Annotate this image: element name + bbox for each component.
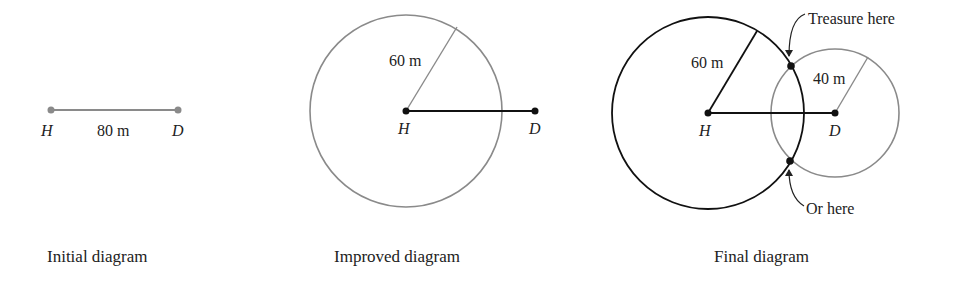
intersection-top (787, 62, 795, 70)
radius-label-h: 60 m (691, 54, 724, 71)
radius-line (406, 27, 457, 111)
label-d: D (171, 122, 184, 139)
point-d (832, 110, 839, 117)
arrow-or-here (789, 170, 804, 206)
radius-label: 60 m (389, 52, 422, 69)
label-h: H (397, 120, 411, 137)
radius-line-h (708, 31, 757, 113)
point-h (705, 110, 712, 117)
point-d (532, 108, 539, 115)
label-d: D (528, 120, 541, 137)
arrow-treasure-here (789, 14, 805, 56)
caption-final: Final diagram (714, 247, 809, 266)
point-d (175, 107, 182, 114)
label-d: D (828, 122, 841, 139)
caption-initial: Initial diagram (47, 247, 148, 266)
improved-diagram: 60 m H D Improved diagram (310, 15, 541, 266)
final-diagram: 60 m 40 m Treasure here Or here H D Fina… (612, 10, 899, 266)
caption-improved: Improved diagram (334, 247, 460, 266)
label-h: H (40, 122, 54, 139)
intersection-bottom (786, 157, 794, 165)
radius-label-d: 40 m (813, 70, 846, 87)
treasure-diagrams: H 80 m D Initial diagram 60 m H D Improv… (0, 0, 960, 291)
distance-label: 80 m (97, 122, 130, 139)
label-h: H (698, 122, 712, 139)
annotation-or-here: Or here (806, 200, 854, 217)
point-h (48, 107, 55, 114)
annotation-treasure-here: Treasure here (808, 10, 895, 27)
initial-diagram: H 80 m D Initial diagram (40, 107, 184, 267)
point-h (403, 108, 410, 115)
